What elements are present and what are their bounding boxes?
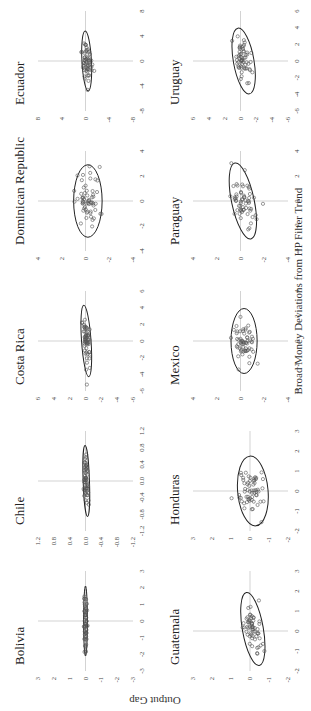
x-tick-label: 4 xyxy=(293,149,300,153)
data-point xyxy=(235,55,238,58)
x-tick-label: -0.4 xyxy=(138,492,145,503)
y-tick-label: 0 xyxy=(246,537,253,540)
data-point xyxy=(246,212,249,215)
data-point xyxy=(248,362,251,365)
x-tick-label: -2 xyxy=(293,528,300,533)
panel-mexico: Mexico420-2-4-4-2024 xyxy=(167,289,300,403)
x-tick-label: 6 xyxy=(138,289,145,293)
x-tick-label: 4 xyxy=(138,305,145,309)
panel-title: Uruguay xyxy=(167,59,182,105)
data-point xyxy=(88,357,91,360)
y-tick-label: 0.4 xyxy=(66,536,73,545)
x-tick-label: 6 xyxy=(293,9,300,13)
x-tick-label: 8 xyxy=(138,9,145,12)
panel-paraguay: Paraguay420-2-4-4-2024 xyxy=(167,149,300,263)
x-tick-label: -8 xyxy=(138,108,145,113)
data-point xyxy=(257,599,260,602)
y-tick-label: 1 xyxy=(227,677,234,680)
data-point xyxy=(91,189,94,192)
data-point xyxy=(248,355,251,358)
data-point xyxy=(251,645,254,648)
data-point xyxy=(89,171,92,174)
y-tick-label: 3 xyxy=(189,677,196,680)
panel-title: Paraguay xyxy=(167,196,182,245)
y-tick-label: 0 xyxy=(237,397,244,400)
x-tick-label: 1.2 xyxy=(138,427,145,435)
panel-title: Dominican Republic xyxy=(12,137,27,245)
data-point xyxy=(261,487,264,490)
y-tick-label: 3 xyxy=(34,677,41,680)
y-tick-label: -0.8 xyxy=(113,537,120,547)
data-point xyxy=(241,353,244,356)
panel-title: Honduras xyxy=(167,474,182,525)
data-point xyxy=(91,225,94,228)
y-tick-label: 4 xyxy=(34,256,41,260)
data-point xyxy=(98,165,101,168)
y-tick-label: -6 xyxy=(284,116,291,122)
x-tick-label: 1 xyxy=(138,603,145,606)
y-tick-label: 2 xyxy=(213,257,220,260)
y-tick-label: -2 xyxy=(97,397,104,402)
y-axis-title: Output Gap xyxy=(129,695,181,707)
x-tick-label: 2 xyxy=(293,589,300,592)
x-tick-label: 4 xyxy=(293,25,300,29)
data-point xyxy=(80,192,83,195)
y-tick-label: 0 xyxy=(82,257,89,260)
data-point xyxy=(260,471,263,474)
y-tick-label: 2 xyxy=(50,677,57,680)
data-point xyxy=(240,473,243,476)
data-point xyxy=(262,500,265,503)
data-point xyxy=(242,622,245,625)
data-point xyxy=(248,330,251,333)
data-point xyxy=(80,179,83,182)
y-tick-label: 1 xyxy=(227,537,234,540)
x-axis-title: Broad Money Deviations from HP Filter Tr… xyxy=(292,187,304,394)
x-tick-label: -4 xyxy=(138,371,145,377)
y-tick-label: -2 xyxy=(105,257,112,262)
y-tick-label: -2 xyxy=(113,677,120,682)
y-tick-label: 1 xyxy=(66,677,73,680)
x-tick-label: 2 xyxy=(138,174,145,177)
x-tick-label: -1.2 xyxy=(138,526,145,536)
y-tick-label: 0 xyxy=(82,677,89,680)
y-tick-label: -2 xyxy=(284,537,291,542)
y-tick-label: 0.8 xyxy=(50,537,57,545)
data-point xyxy=(76,197,79,200)
x-tick-label: -2 xyxy=(138,355,145,360)
y-tick-label: -4 xyxy=(113,396,120,402)
x-tick-label: -4 xyxy=(138,83,145,89)
data-point xyxy=(255,635,258,638)
y-tick-label: 0 xyxy=(82,117,89,120)
y-tick-label: 6 xyxy=(189,116,196,120)
y-tick-label: -4 xyxy=(284,256,291,262)
y-tick-label: 2 xyxy=(213,397,220,400)
panel-title: Chile xyxy=(12,497,27,525)
y-tick-label: -1.2 xyxy=(129,537,136,547)
y-tick-label: 3 xyxy=(189,537,196,540)
y-tick-label: -4 xyxy=(129,256,136,262)
y-tick-label: -2 xyxy=(252,117,259,122)
y-tick-label: 2 xyxy=(58,257,65,260)
y-tick-label: 0.0 xyxy=(82,537,89,545)
y-tick-label: 2 xyxy=(66,397,73,400)
data-point xyxy=(237,355,240,358)
x-tick-label: -3 xyxy=(138,668,145,673)
data-point xyxy=(259,500,262,503)
panel-title: Mexico xyxy=(167,345,182,385)
y-tick-label: 6 xyxy=(34,396,41,400)
y-tick-label: 4 xyxy=(205,116,212,120)
data-point xyxy=(94,208,97,211)
data-point xyxy=(253,638,256,641)
data-point xyxy=(248,192,251,195)
x-tick-label: 4 xyxy=(138,34,145,38)
data-point xyxy=(235,193,238,196)
y-tick-label: -1 xyxy=(265,537,272,542)
x-tick-label: -6 xyxy=(293,108,300,114)
panel-title: Guatemala xyxy=(167,608,182,665)
x-tick-label: 0 xyxy=(138,619,145,622)
x-tick-label: 0 xyxy=(293,59,300,62)
panel-bolivia: Bolivia3210-1-2-3-3-2-10123 xyxy=(12,569,145,682)
data-point xyxy=(83,318,86,321)
data-point xyxy=(250,489,253,492)
data-point xyxy=(236,35,239,38)
